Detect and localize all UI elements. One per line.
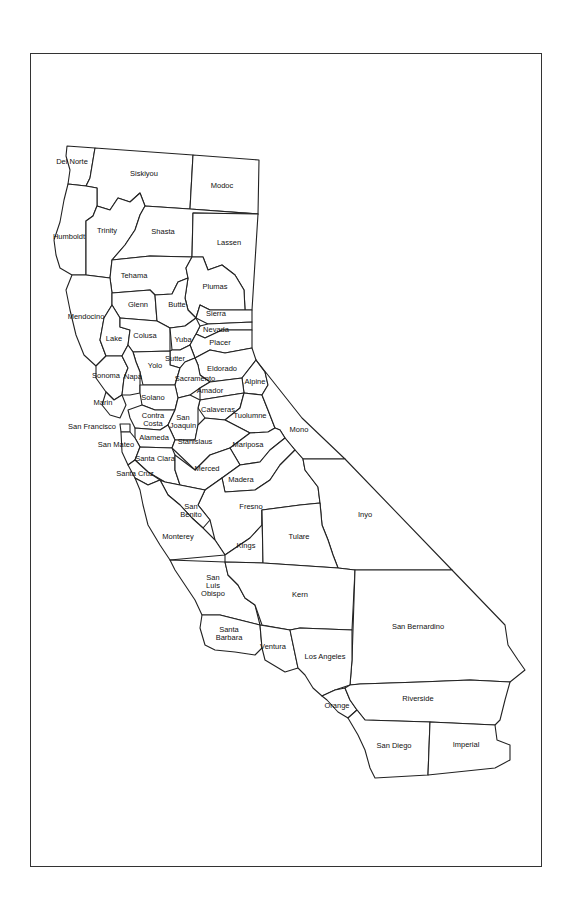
county-label-madera: Madera	[228, 476, 253, 484]
county-label-placer: Placer	[209, 339, 230, 347]
county-label-tehama: Tehama	[121, 272, 148, 280]
county-label-alpine: Alpine	[245, 378, 266, 386]
county-label-contra-costa: ContraCosta	[142, 412, 165, 428]
county-label-san-joaquin: SanJoaquin	[170, 414, 196, 430]
county-label-mono: Mono	[290, 426, 309, 434]
county-label-yuba: Yuba	[174, 336, 191, 344]
county-label-san-francisco: San Francisco	[68, 423, 116, 431]
county-label-modoc: Modoc	[211, 182, 234, 190]
county-label-colusa: Colusa	[133, 332, 156, 340]
county-label-los-angeles: Los Angeles	[305, 653, 346, 661]
county-label-eldorado: Eldorado	[207, 365, 237, 373]
county-label-sonoma: Sonoma	[92, 372, 120, 380]
county-label-nevada: Nevada	[203, 326, 229, 334]
county-label-lake: Lake	[106, 335, 122, 343]
county-label-orange: Orange	[324, 702, 349, 710]
county-label-santa-barbara: SantaBarbara	[216, 626, 243, 642]
county-label-sacramento: Sacramento	[175, 375, 215, 383]
county-label-san-mateo: San Mateo	[98, 441, 134, 449]
county-label-plumas: Plumas	[202, 283, 227, 291]
county-label-napa: Napa	[124, 373, 142, 381]
county-label-santa-clara: Santa Clara	[135, 455, 175, 463]
county-label-siskiyou: Siskiyou	[130, 170, 158, 178]
county-label-shasta: Shasta	[151, 228, 174, 236]
county-label-san-diego: San Diego	[376, 742, 411, 750]
county-label-glenn: Glenn	[128, 301, 148, 309]
county-label-alameda: Alameda	[139, 434, 169, 442]
county-los-angeles[interactable]	[290, 628, 352, 696]
county-label-sierra: Sierra	[206, 310, 226, 318]
county-label-trinity: Trinity	[97, 227, 117, 235]
county-san-francisco[interactable]	[120, 424, 130, 432]
county-label-kern: Kern	[292, 591, 308, 599]
county-label-mendocino: Mendocino	[68, 313, 105, 321]
county-label-amador: Amador	[197, 387, 223, 395]
county-label-calaveras: Calaveras	[201, 406, 235, 414]
county-label-mariposa: Mariposa	[233, 441, 264, 449]
county-label-lassen: Lassen	[217, 239, 241, 247]
county-label-imperial: Imperial	[453, 741, 480, 749]
county-label-san-benito: SanBenito	[180, 503, 201, 519]
county-label-butte: Butte	[168, 301, 186, 309]
county-label-riverside: Riverside	[402, 695, 433, 703]
county-label-ventura: Ventura	[260, 643, 286, 651]
california-county-map	[0, 0, 574, 916]
county-label-kings: Kings	[237, 542, 256, 550]
county-label-yolo: Yolo	[148, 362, 162, 370]
county-label-merced: Merced	[194, 465, 219, 473]
county-label-inyo: Inyo	[358, 511, 372, 519]
county-label-tuolumne: Tuolumne	[233, 412, 266, 420]
county-label-solano: Solano	[141, 394, 164, 402]
county-label-marin: Marin	[94, 399, 113, 407]
county-label-del-norte: Del Norte	[56, 158, 88, 166]
county-label-monterey: Monterey	[162, 533, 193, 541]
county-label-stanislaus: Stanislaus	[178, 438, 213, 446]
county-label-san-bernardino: San Bernardino	[392, 623, 444, 631]
county-label-tulare: Tulare	[289, 533, 310, 541]
county-label-san-luis-obispo: SanLuisObispo	[201, 574, 225, 598]
county-label-santa-cruz: Santa Cruz	[116, 470, 154, 478]
county-label-sutter: Sutter	[165, 355, 185, 363]
county-label-humboldt: Humboldt	[53, 233, 85, 241]
county-label-fresno: Fresno	[239, 503, 262, 511]
